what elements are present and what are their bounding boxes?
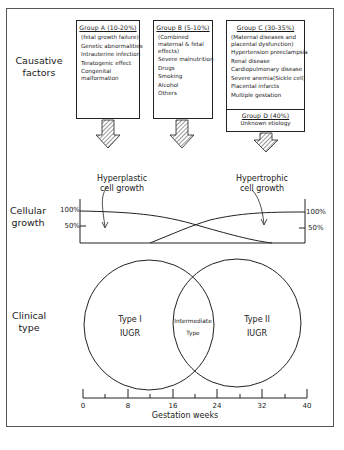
arrow-down-icon-b (170, 120, 194, 148)
tick-label: 24 (209, 401, 225, 411)
diagram-graphics (0, 0, 344, 450)
type1-title: Type I (110, 313, 150, 327)
y-label-100-left: 100% (56, 205, 80, 215)
tick-label: 32 (254, 401, 270, 411)
tick-label: 0 (75, 401, 91, 411)
arrow-down-icon-c (254, 133, 278, 152)
intermediate-label: Intermediate Type (168, 315, 218, 339)
hyperplastic-label: Hyperplastic cell growth (92, 174, 152, 194)
y-label-100-right: 100% (306, 207, 330, 217)
growth-chart (80, 186, 305, 243)
type2-sub: IUGR (237, 327, 277, 341)
tick-label: 40 (299, 401, 315, 411)
type1-label: Type I IUGR (110, 313, 150, 341)
gestation-axis (83, 389, 307, 398)
type2-title: Type II (237, 313, 277, 327)
axis-title: Gestation weeks (140, 411, 230, 421)
arrow-down-icon-a (96, 120, 120, 148)
hypertrophic-label: Hypertrophic cell growth (232, 174, 292, 194)
type1-sub: IUGR (110, 327, 150, 341)
intermediate-title: Intermediate (168, 315, 218, 327)
tick-label: 16 (165, 401, 181, 411)
tick-label: 8 (120, 401, 136, 411)
y-label-50-left: 50% (56, 221, 80, 231)
y-label-50-right: 50% (308, 223, 332, 233)
intermediate-sub: Type (168, 327, 218, 339)
type2-label: Type II IUGR (237, 313, 277, 341)
